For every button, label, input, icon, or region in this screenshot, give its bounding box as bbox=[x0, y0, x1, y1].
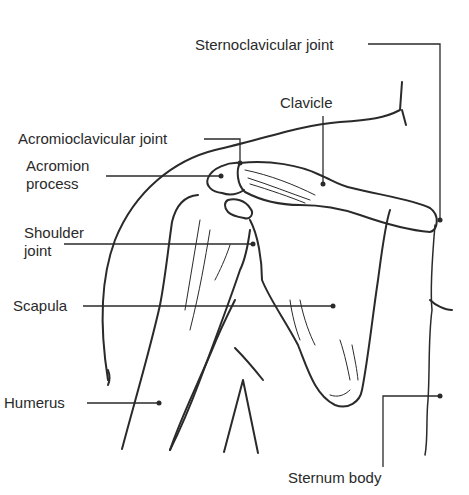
shoulder-anatomy-drawing bbox=[0, 0, 469, 495]
point-humerus bbox=[157, 401, 162, 406]
shoulder-outline bbox=[103, 82, 402, 380]
clavicle-bone bbox=[238, 162, 437, 232]
label-humerus: Humerus bbox=[4, 394, 65, 411]
point-clavicle bbox=[321, 182, 326, 187]
ribcage-arc bbox=[235, 348, 263, 380]
coracoid bbox=[225, 199, 252, 218]
label-acromion-line2: process bbox=[26, 175, 79, 192]
point-scapula bbox=[331, 304, 336, 309]
sternum-edge bbox=[425, 225, 435, 455]
label-shoulder-line1: Shoulder bbox=[24, 224, 84, 241]
leader-sternum bbox=[383, 396, 440, 467]
point-sternoclavicular bbox=[438, 218, 443, 223]
point-acromion bbox=[219, 174, 224, 179]
label-acromion-line1: Acromion bbox=[26, 157, 89, 174]
label-clavicle: Clavicle bbox=[280, 94, 333, 111]
point-acromioclavicular bbox=[238, 161, 243, 166]
point-shoulder-joint bbox=[251, 242, 256, 247]
ribcage-v-left bbox=[224, 380, 258, 453]
label-sternum-body: Sternum body bbox=[288, 469, 381, 486]
label-sternoclavicular-joint: Sternoclavicular joint bbox=[195, 36, 333, 53]
label-shoulder-line2: joint bbox=[24, 242, 52, 259]
point-sternum bbox=[438, 394, 443, 399]
humerus-inner bbox=[185, 220, 230, 330]
rib-edge bbox=[430, 300, 452, 310]
clavicle-hatching bbox=[245, 170, 315, 203]
label-scapula: Scapula bbox=[13, 297, 67, 314]
humerus-bone bbox=[122, 195, 198, 449]
label-acromioclavicular-joint: Acromioclavicular joint bbox=[18, 130, 167, 147]
neck-tick bbox=[402, 110, 406, 125]
scapula-bone bbox=[250, 210, 390, 407]
